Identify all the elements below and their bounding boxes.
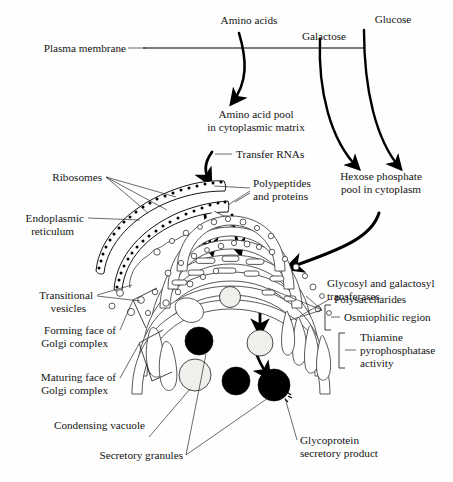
amino-acid-pool-to-er-arrow <box>206 152 212 183</box>
leader-polypeptides-2 <box>228 191 250 205</box>
label-polysaccharides: Polysaccharides <box>334 293 406 305</box>
leader-secretory-granule-2 <box>186 398 268 455</box>
galactose-flow-arrow <box>320 39 358 168</box>
label-forming-face-line1: Forming face of <box>44 324 116 336</box>
leader-ribosomes-3 <box>106 177 148 213</box>
label-osmiophilic: Osmiophilic region <box>344 311 431 323</box>
label-thiamine-line3: activity <box>360 357 394 369</box>
condensing-vacuole-2 <box>247 330 273 356</box>
label-glucose: Glucose <box>375 13 412 25</box>
glucose-flow-arrow <box>364 30 400 168</box>
osmiophilic-region-bracket <box>325 305 331 330</box>
label-ribosomes: Ribosomes <box>52 171 102 183</box>
label-secretory-granules: Secretory granules <box>99 449 183 461</box>
label-plasma-membrane: Plasma membrane <box>44 42 126 54</box>
amino-acid-flow-arrow <box>232 33 245 103</box>
label-transitional-line1: Transitional <box>39 289 93 301</box>
label-transitional-line2: vesicles <box>51 302 86 314</box>
label-hexose-line1: Hexose phosphate <box>340 170 422 182</box>
label-glycoprotein-line2: secretory product <box>300 447 379 459</box>
label-thiamine-line1: Thiamine <box>360 331 403 343</box>
hexose-to-golgi-arrow <box>288 213 379 268</box>
label-polypeptides-line2: and proteins <box>253 190 308 202</box>
glycoprotein-secretory-product-granule <box>258 369 290 401</box>
thiamine-region-bracket <box>339 333 345 368</box>
label-condensing-vacuole: Condensing vacuole <box>54 419 145 431</box>
condensing-vacuole-3 <box>179 359 211 391</box>
leader-glycoprotein <box>285 398 297 440</box>
leader-transitional-2 <box>97 296 140 301</box>
diagram-canvas: Plasma membrane Amino acids Galactose Gl… <box>0 0 453 482</box>
secretory-granule-1 <box>185 327 213 355</box>
label-glycosyl-line1: Glycosyl and galactosyl <box>327 277 435 289</box>
leader-condensing-vacuole <box>149 389 190 437</box>
label-amino-acid-pool-line1: Amino acid pool <box>218 108 293 120</box>
label-amino-acids: Amino acids <box>221 14 278 26</box>
label-maturing-face-line1: Maturing face of <box>41 371 116 383</box>
label-polypeptides-line1: Polypeptides <box>253 177 311 189</box>
condensing-vacuole-1 <box>220 287 241 308</box>
label-forming-face-line2: Golgi complex <box>41 337 108 349</box>
leader-ribosomes-2 <box>106 177 167 210</box>
label-galactose: Galactose <box>302 30 346 42</box>
label-hexose-line2: pool in cytoplasm <box>341 183 421 195</box>
secretory-granule-2 <box>222 367 250 395</box>
label-transfer-rnas: Transfer RNAs <box>236 148 304 160</box>
label-thiamine-line2: pyrophosphatase <box>360 344 435 356</box>
label-endoplasmic-line2: reticulum <box>31 225 74 237</box>
label-maturing-face-line2: Golgi complex <box>41 384 108 396</box>
cell-biology-diagram: Plasma membrane Amino acids Galactose Gl… <box>0 0 453 482</box>
leader-polypeptides-3 <box>235 193 250 202</box>
label-endoplasmic-line1: Endoplasmic <box>26 212 84 224</box>
label-amino-acid-pool-line2: in cytoplasmic matrix <box>207 121 305 133</box>
label-glycoprotein-line1: Glycoprotein <box>300 434 359 446</box>
leader-ribosomes-1 <box>106 177 176 197</box>
